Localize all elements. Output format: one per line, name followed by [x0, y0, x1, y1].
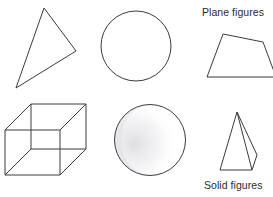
- figure-pyramid: [220, 112, 257, 170]
- figure-triangle: [16, 8, 76, 88]
- cube-edge-bottom-right: [60, 149, 86, 175]
- pyramid-base-back-edge: [252, 155, 257, 170]
- triangle-outline: [16, 8, 76, 88]
- cube-front-face: [5, 130, 60, 175]
- circle-outline: [101, 11, 171, 81]
- figures-diagram-page: Plane figures Solid figures: [0, 0, 273, 197]
- caption-plane-figures: Plane figures: [202, 7, 264, 18]
- cube-edge-top-left: [5, 104, 31, 130]
- trapezoid-outline: [207, 34, 273, 77]
- figures-canvas: [0, 0, 273, 197]
- cube-edge-top-right: [60, 104, 86, 130]
- pyramid-front-face: [220, 112, 252, 170]
- figure-sphere: [115, 105, 186, 176]
- cube-back-face: [31, 104, 86, 149]
- figure-cube: [5, 104, 86, 175]
- figure-trapezoid: [207, 34, 273, 77]
- cube-edge-bottom-left: [5, 149, 31, 175]
- figure-circle: [101, 11, 171, 81]
- pyramid-back-edge: [237, 112, 257, 155]
- caption-solid-figures: Solid figures: [204, 180, 262, 191]
